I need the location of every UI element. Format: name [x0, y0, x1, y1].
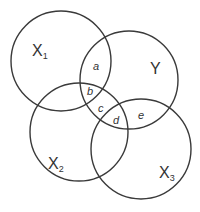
circle-y: [80, 31, 178, 129]
region-b: b: [87, 85, 93, 97]
label-x2: X2: [48, 155, 64, 174]
region-a: a: [93, 60, 99, 72]
label-x3: X3: [159, 164, 175, 183]
region-d: d: [113, 114, 120, 126]
label-y: Y: [150, 60, 161, 77]
region-c: c: [98, 102, 104, 114]
region-e: e: [138, 109, 144, 121]
label-x1: X1: [32, 42, 48, 61]
venn-diagram: X1 Y X2 X3 a b c d e: [0, 0, 200, 212]
circle-x2: [30, 83, 128, 181]
